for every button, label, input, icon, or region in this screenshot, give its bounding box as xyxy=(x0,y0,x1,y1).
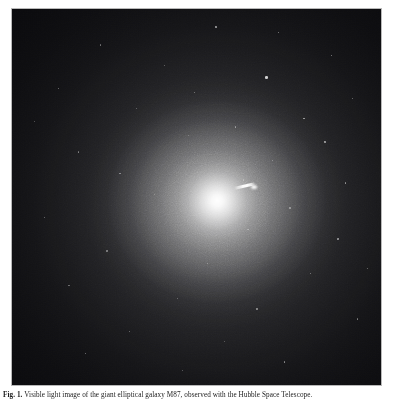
star-point-source xyxy=(85,353,86,354)
star-point-source xyxy=(265,76,268,79)
star-point-source xyxy=(272,160,273,161)
sky-background-layer xyxy=(12,9,381,385)
star-point-source xyxy=(243,179,244,180)
galaxy-halo-layer xyxy=(12,9,381,385)
star-point-source xyxy=(182,370,183,371)
star-point-source xyxy=(303,118,305,120)
figure-caption: Fig. 1. Visible light image of the giant… xyxy=(3,391,393,400)
star-point-source xyxy=(194,92,195,93)
astronomical-image-plate xyxy=(11,8,382,386)
star-field-layer xyxy=(12,9,381,385)
star-point-source xyxy=(177,298,178,299)
galaxy-bulge-layer xyxy=(12,9,381,385)
star-point-source xyxy=(247,229,248,230)
star-point-source xyxy=(119,173,120,174)
star-point-source xyxy=(164,65,165,66)
star-point-source xyxy=(357,318,358,319)
star-point-source xyxy=(215,26,217,28)
star-point-source xyxy=(34,121,35,122)
star-point-source xyxy=(235,126,236,127)
star-point-source xyxy=(224,341,225,342)
star-point-source xyxy=(324,141,326,143)
star-point-source xyxy=(68,285,69,286)
star-point-source xyxy=(345,182,347,184)
star-point-source xyxy=(100,44,101,45)
star-point-source xyxy=(136,108,137,109)
star-point-source xyxy=(154,194,155,195)
star-point-source xyxy=(289,207,290,208)
relativistic-jet xyxy=(234,182,256,190)
star-point-source xyxy=(331,55,333,57)
star-point-source xyxy=(310,273,311,274)
star-point-source xyxy=(58,88,59,89)
figure-caption-label: Fig. 1. xyxy=(3,391,22,399)
detector-grain-layer xyxy=(12,9,381,385)
star-point-source xyxy=(44,217,45,218)
star-point-source xyxy=(352,98,353,99)
star-point-source xyxy=(129,331,130,332)
star-point-source xyxy=(188,135,189,136)
star-point-source xyxy=(78,151,79,152)
star-point-source xyxy=(284,361,286,363)
star-point-source xyxy=(256,308,258,310)
star-point-source xyxy=(278,32,279,33)
star-point-source xyxy=(367,268,368,269)
star-point-source xyxy=(207,263,208,264)
figure-caption-text: Visible light image of the giant ellipti… xyxy=(24,391,312,399)
star-point-source xyxy=(337,238,339,240)
jet-knot xyxy=(251,185,257,189)
figure-root: Fig. 1. Visible light image of the giant… xyxy=(0,0,394,402)
galaxy-core-layer xyxy=(12,9,381,385)
star-point-source xyxy=(106,250,107,251)
